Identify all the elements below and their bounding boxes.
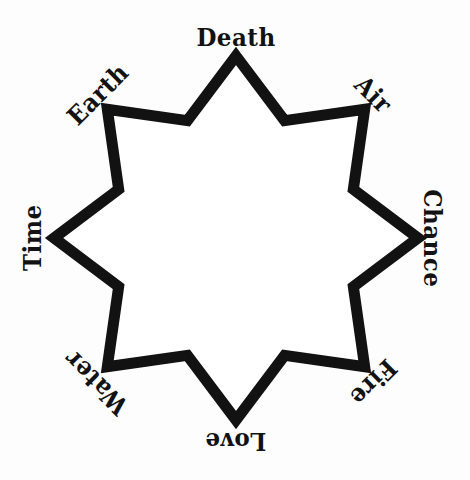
diagram-canvas: Death Air Chance Fire Love Water Time Ea… (0, 0, 470, 480)
star-point-label-love[interactable]: Love (156, 426, 316, 456)
star-outline (54, 56, 418, 420)
label-text-love: Love (205, 426, 266, 456)
star-point-label-chance[interactable]: Chance (417, 158, 447, 318)
label-text-time: Time (18, 205, 48, 272)
label-text-death: Death (196, 23, 275, 53)
star-point-label-time[interactable]: Time (18, 158, 48, 318)
star-point-label-death[interactable]: Death (156, 23, 316, 53)
octagram-star-shape (0, 0, 470, 480)
label-text-chance: Chance (417, 189, 447, 287)
